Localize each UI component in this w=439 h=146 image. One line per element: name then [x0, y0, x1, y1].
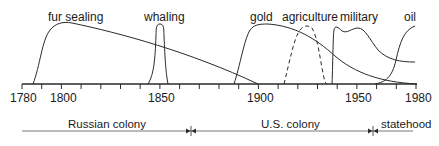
period-divider-1867	[186, 126, 196, 136]
whaling-curve	[148, 24, 168, 84]
chart-container: fur sealing whaling gold agriculture mil…	[0, 0, 439, 146]
oil-label: oil	[404, 10, 416, 24]
whaling-label: whaling	[143, 10, 185, 24]
period-label-statehood: statehood	[381, 118, 432, 130]
military-label: military	[340, 10, 378, 24]
military-curve	[332, 27, 415, 84]
tick-label-1850: 1850	[148, 91, 175, 105]
x-axis-ticks	[22, 84, 416, 89]
period-label-russian-colony: Russian colony	[68, 118, 146, 130]
chart-svg: fur sealing whaling gold agriculture mil…	[0, 0, 439, 146]
agriculture-label: agriculture	[282, 10, 338, 24]
fur-sealing-label: fur sealing	[48, 10, 103, 24]
gold-curve	[234, 24, 417, 84]
tick-label-1950: 1950	[345, 91, 372, 105]
tick-label-1800: 1800	[50, 91, 77, 105]
tick-label-1780: 1780	[10, 91, 37, 105]
oil-curve	[375, 26, 415, 84]
period-label-us-colony: U.S. colony	[261, 118, 320, 130]
fur-sealing-curve	[33, 22, 258, 84]
tick-label-1900: 1900	[247, 91, 274, 105]
tick-label-1980: 1980	[405, 91, 432, 105]
gold-label: gold	[250, 10, 273, 24]
period-divider-1959	[368, 126, 378, 136]
